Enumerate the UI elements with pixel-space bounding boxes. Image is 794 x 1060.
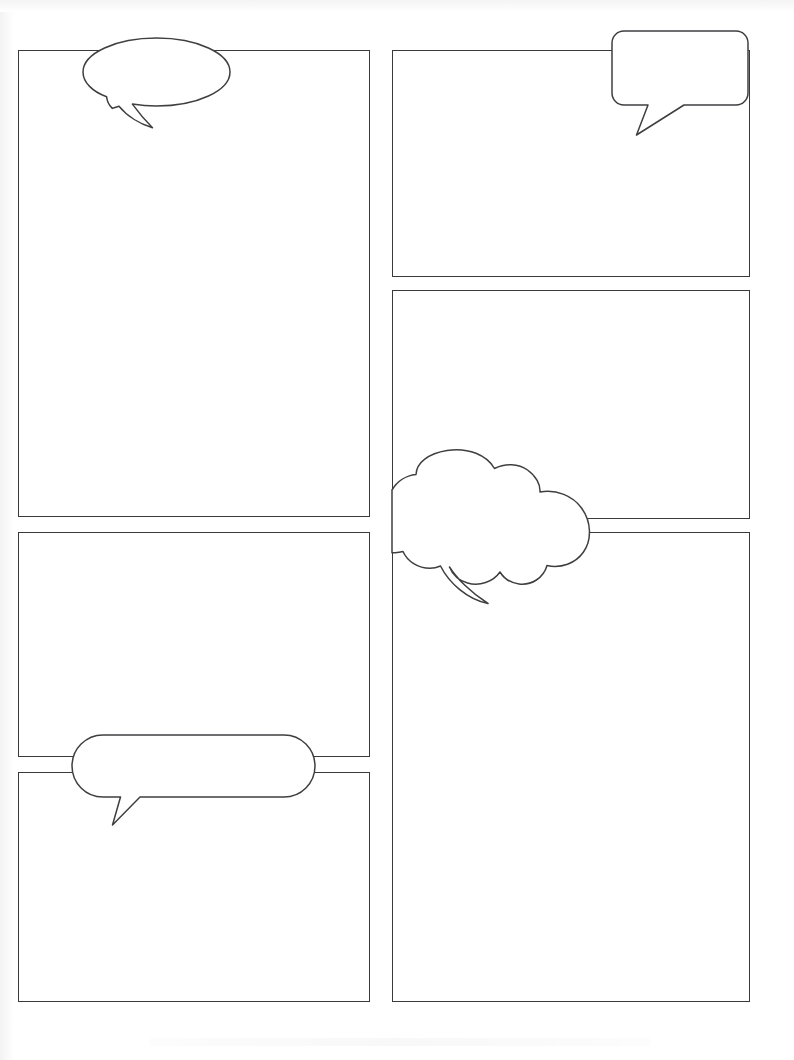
- comic-panel-3[interactable]: [18, 772, 370, 1002]
- scan-smudge: [150, 1038, 650, 1046]
- comic-panel-6[interactable]: [392, 532, 750, 1002]
- comic-panel-1[interactable]: [18, 50, 370, 517]
- comic-panel-2[interactable]: [18, 532, 370, 757]
- comic-page: [0, 0, 794, 1060]
